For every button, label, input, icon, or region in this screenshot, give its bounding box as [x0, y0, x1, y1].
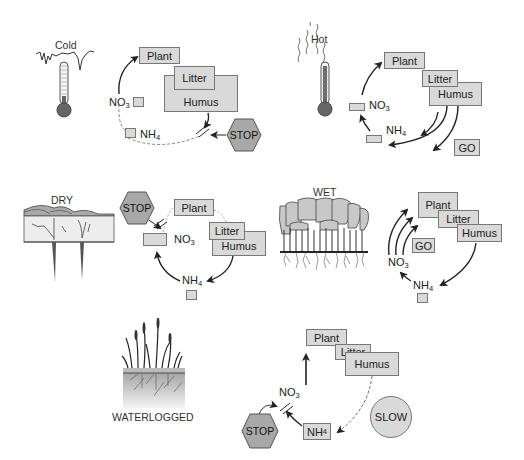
waterlogged-humus-to-nh4-arrow [338, 376, 372, 432]
hot-nh4-pool [366, 135, 382, 143]
cold-nh4-pool [125, 128, 136, 138]
wet-no3-to-plant-arrow-1 [389, 210, 407, 255]
dry-stop-sign: STOP [119, 191, 155, 225]
cold-no3-label: NO3 [109, 96, 130, 110]
cold-no3-to-plant-arrow [119, 57, 137, 94]
wet-nh4-pool [417, 293, 428, 303]
hot-no3-to-plant-arrow [362, 63, 381, 95]
wet-no3-label: NO3 [388, 256, 409, 270]
wet-no3-to-plant-arrow-2 [396, 218, 412, 255]
cold-block-mark-2 [199, 129, 209, 137]
hot-no3-pool [349, 103, 365, 111]
waterlogged-no3-label: NO3 [279, 386, 300, 400]
cold-no3-pool [133, 97, 144, 107]
wet-go-sign: GO [412, 238, 435, 253]
dry-block-mark-1 [154, 219, 164, 226]
dry-dashed-no3-plant [163, 208, 173, 232]
dry-soil-icon [20, 202, 120, 292]
cold-block-mark-1 [196, 126, 206, 134]
wet-forest-icon [276, 196, 372, 276]
hot-nh4-to-no3-arrow [361, 116, 370, 131]
dry-nh4-to-no3-arrow [157, 253, 180, 281]
dry-dashed-plant-litter [214, 210, 226, 222]
waterlogged-humus-box: Humus [345, 352, 399, 376]
waterlogged-slow-badge: SLOW [370, 396, 412, 438]
waterlogged-label: WATERLOGGED [112, 411, 194, 423]
hot-no3-label: NO3 [369, 99, 390, 113]
dry-nh4-label: NH4 [182, 274, 202, 288]
waterlogged-stop-sign: STOP [241, 413, 279, 449]
wet-nh4-to-no3-arrow [401, 273, 411, 281]
dry-plant-box: Plant [174, 199, 214, 216]
hot-label: Hot [311, 33, 327, 45]
dry-block-mark-2 [157, 222, 167, 229]
wet-humus-box: Humus [457, 224, 502, 242]
cold-stop-sign: STOP [226, 117, 262, 153]
waterlogged-block-mark-1 [280, 403, 290, 411]
dry-litter-box: Litter [209, 222, 245, 240]
dry-no3-pool [143, 233, 167, 246]
dry-nh4-pool [186, 290, 197, 300]
thermometer-high-icon [313, 60, 337, 118]
waterlogged-marsh-icon [120, 318, 190, 410]
hot-nh4-label: NH4 [386, 124, 406, 138]
cold-plant-box: Plant [139, 47, 180, 64]
dry-no3-label: NO3 [174, 233, 195, 247]
cold-litter-box: Litter [174, 66, 215, 90]
wet-humus-to-nh4-arrow [441, 243, 476, 285]
hot-litter-box: Litter [422, 70, 458, 87]
wet-nh4-label: NH4 [413, 279, 433, 293]
cold-dashed-path-b [128, 136, 200, 145]
waterlogged-block-mark-2 [283, 406, 293, 414]
waterlogged-nh4-box: NH4 [303, 423, 331, 440]
cold-humus-down-arrow [205, 113, 209, 127]
hot-humus-arrow-1 [422, 112, 438, 135]
thermometer-low-icon [34, 48, 96, 123]
dry-humus-to-nh4-arrow [208, 256, 233, 281]
cold-nh4-label: NH4 [140, 128, 160, 142]
waterlogged-nh4-to-no3-arrow [287, 412, 302, 426]
hot-plant-box: Plant [384, 52, 425, 69]
hot-go-sign: GO [454, 139, 480, 156]
